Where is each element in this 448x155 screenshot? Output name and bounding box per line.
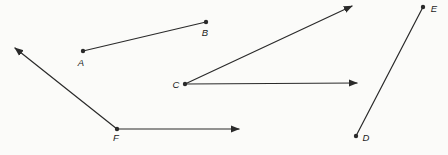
point-label-D: D — [363, 132, 370, 143]
point-dot-C — [183, 82, 187, 86]
point-label-B: B — [202, 27, 209, 38]
point-dot-A — [81, 49, 85, 53]
point-label-E: E — [431, 3, 438, 14]
point-dot-D — [354, 134, 358, 138]
point-dot-E — [421, 5, 425, 9]
geometry-canvas: ABCDEF — [0, 0, 448, 155]
point-label-A: A — [77, 57, 84, 68]
geometry-figure: ABCDEF — [0, 0, 448, 155]
point-dot-B — [204, 20, 208, 24]
point-dot-F — [115, 127, 119, 131]
figure-background — [0, 0, 448, 155]
point-label-C: C — [173, 79, 180, 90]
